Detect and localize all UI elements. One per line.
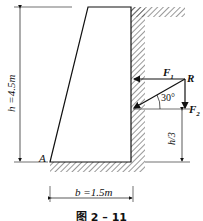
- height-label: h =4.5m: [6, 75, 17, 112]
- resultant-label: R: [187, 73, 194, 84]
- point-a-label: A: [39, 153, 46, 164]
- figure-caption: 图 2 – 11: [0, 208, 203, 221]
- soil-hatch-vertical: [131, 7, 145, 162]
- force-2-label: F2: [189, 104, 200, 118]
- base-label: b =1.5m: [75, 187, 112, 198]
- force-1-label: F1: [163, 67, 174, 81]
- retaining-wall-diagram: h =4.5m A F1 R 30° F2 h/3 b =1.5m 图 2 – …: [0, 0, 203, 221]
- angle-label: 30°: [161, 93, 175, 103]
- third-height-label: h/3: [167, 132, 177, 145]
- wall-body: [50, 7, 131, 162]
- ground-hatch: [50, 162, 145, 172]
- soil-hatch-top: [131, 7, 185, 17]
